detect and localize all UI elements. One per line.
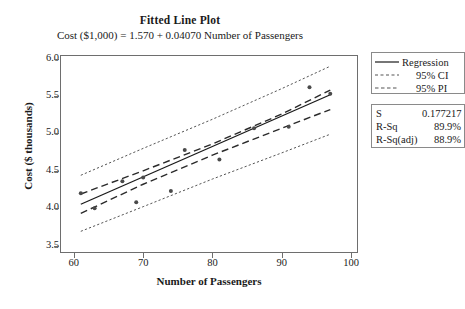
legend-label-pi: 95% PI bbox=[402, 83, 464, 94]
prediction-interval-lower-line bbox=[81, 134, 330, 231]
data-point bbox=[79, 191, 83, 195]
plot-canvas bbox=[60, 55, 358, 253]
regression-line bbox=[81, 95, 330, 204]
x-tick-mark bbox=[143, 253, 144, 258]
stats-key-rsq: R-Sq bbox=[376, 121, 422, 132]
stats-value-rsqadj: 88.9% bbox=[422, 134, 464, 145]
legend-item-pi: 95% PI bbox=[372, 82, 464, 94]
legend-line-dashed-icon bbox=[372, 71, 402, 79]
stats-row-rsqadj: R-Sq(adj) 88.9% bbox=[376, 134, 464, 147]
y-tick-mark bbox=[54, 208, 59, 209]
x-tick-label: 100 bbox=[336, 257, 366, 268]
y-tick-label: 4.5 bbox=[33, 165, 59, 175]
y-tick-label: 5.0 bbox=[33, 127, 59, 137]
legend-label-ci: 95% CI bbox=[402, 70, 464, 81]
stats-value-rsq: 89.9% bbox=[422, 121, 464, 132]
legend-box: Regression 95% CI 95% PI bbox=[371, 52, 465, 94]
stats-value-s: 0.177217 bbox=[422, 108, 464, 119]
y-tick-mark bbox=[54, 59, 59, 60]
data-point bbox=[183, 148, 187, 152]
y-tick-mark bbox=[54, 96, 59, 97]
chart-title: Fitted Line Plot bbox=[0, 14, 360, 26]
prediction-interval-upper-line bbox=[81, 66, 330, 175]
legend-item-ci: 95% CI bbox=[372, 69, 464, 81]
data-point bbox=[93, 206, 97, 210]
data-point bbox=[141, 176, 145, 180]
data-point bbox=[120, 179, 124, 183]
y-tick-label: 4.0 bbox=[33, 202, 59, 212]
chart-subtitle: Cost ($1,000) = 1.570 + 0.04070 Number o… bbox=[0, 29, 360, 41]
legend-line-solid-icon bbox=[372, 58, 402, 66]
stats-row-rsq: R-Sq 89.9% bbox=[376, 121, 464, 134]
x-axis-title: Number of Passengers bbox=[60, 275, 358, 287]
x-tick-label: 70 bbox=[128, 257, 158, 268]
stats-row-s: S 0.177217 bbox=[376, 108, 464, 121]
data-point bbox=[328, 92, 332, 96]
x-tick-mark bbox=[74, 253, 75, 258]
data-point bbox=[307, 85, 311, 89]
x-tick-label: 80 bbox=[197, 257, 227, 268]
x-tick-mark bbox=[351, 253, 352, 258]
y-tick-mark bbox=[54, 246, 59, 247]
data-point bbox=[287, 125, 291, 129]
y-tick-mark bbox=[54, 133, 59, 134]
data-point bbox=[217, 158, 221, 162]
y-tick-label: 5.5 bbox=[33, 90, 59, 100]
stats-key-rsqadj: R-Sq(adj) bbox=[376, 134, 422, 145]
data-point bbox=[169, 189, 173, 193]
y-tick-mark bbox=[54, 171, 59, 172]
statistics-box: S 0.177217 R-Sq 89.9% R-Sq(adj) 88.9% bbox=[371, 104, 465, 148]
x-tick-mark bbox=[282, 253, 283, 258]
legend-item-regression: Regression bbox=[372, 56, 464, 68]
y-tick-label: 3.5 bbox=[33, 240, 59, 250]
x-tick-mark bbox=[212, 253, 213, 258]
confidence-interval-upper-line bbox=[81, 90, 330, 194]
legend-line-dotted-icon bbox=[372, 84, 402, 92]
y-tick-label: 6.0 bbox=[33, 53, 59, 63]
x-tick-label: 60 bbox=[59, 257, 89, 268]
x-tick-label: 90 bbox=[267, 257, 297, 268]
data-point bbox=[252, 126, 256, 130]
confidence-interval-lower-line bbox=[81, 110, 330, 214]
legend-label-regression: Regression bbox=[402, 57, 464, 68]
y-axis-title: Cost ($ thousands) bbox=[22, 56, 34, 236]
fitted-line-plot-chart: Fitted Line Plot Cost ($1,000) = 1.570 +… bbox=[0, 0, 465, 309]
stats-key-s: S bbox=[376, 108, 422, 119]
data-point bbox=[134, 200, 138, 204]
